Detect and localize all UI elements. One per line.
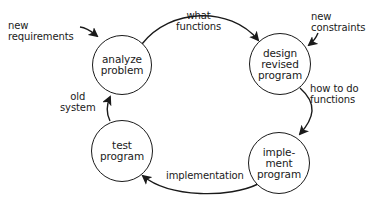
node-implement-program-label: imple- ment program [257,147,301,180]
node-implement-program: imple- ment program [248,132,310,194]
edge-label-implementation: implementation [166,171,244,182]
input-label-new-constraints: new constraints [311,12,365,33]
input-label-new-requirements: new requirements [8,21,74,42]
node-test-program-label: test program [100,140,144,162]
software-lifecycle-diagram: analyze problem design revised program i… [0,0,381,200]
node-design-revised-program: design revised program [249,33,311,95]
input-new-constraints-arrow [309,33,318,45]
node-analyze-problem-label: analyze problem [101,54,144,76]
node-analyze-problem: analyze problem [92,35,152,95]
edge-label-old-system: old system [60,92,96,113]
edge-label-what-functions: what functions [176,11,221,32]
edge-label-how-to-do-functions: how to do functions [310,84,359,105]
input-new-requirements-arrow [80,27,97,36]
edge-test-to-analyze [107,97,110,121]
node-design-revised-program-label: design revised program [258,48,302,81]
node-test-program: test program [91,120,153,182]
